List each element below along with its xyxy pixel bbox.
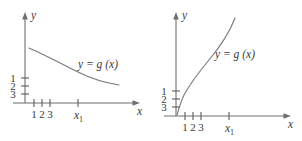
x-sub-one-subscript: 1 (79, 115, 83, 124)
curve-label-right: y = g (x) (214, 48, 255, 61)
x-tick-label-1: 1 (31, 108, 37, 120)
x-tick-label-3: 3 (47, 108, 53, 120)
x-sub-one-label: x1 (73, 109, 83, 124)
x-sub-one-subscript: 1 (230, 128, 234, 137)
x-axis-label: x (136, 105, 143, 117)
x-tick-label-3: 3 (198, 121, 204, 133)
y-axis-right (173, 12, 179, 116)
y-axis-label: y (181, 9, 188, 22)
chart-panel-left: y x 3 2 1 1 2 3 x1 y = g (x) (0, 0, 151, 141)
x-axis-right (164, 113, 291, 119)
x-tick-label-1: 1 (182, 121, 188, 133)
x-axis-label: x (287, 118, 294, 130)
x-tick-label-2: 2 (39, 108, 45, 120)
x-axis-left (13, 100, 140, 106)
y-tick-label-1: 1 (10, 72, 16, 84)
x-tick-label-2: 2 (190, 121, 196, 133)
y-axis-label: y (30, 9, 37, 22)
curve-label-left: y = g (x) (77, 58, 118, 71)
x-sub-one-label: x1 (224, 122, 234, 137)
chart-panel-right: y x 3 2 1 1 2 3 x1 y = g (x) (151, 0, 302, 141)
y-tick-label-1: 1 (161, 85, 167, 97)
y-axis-left (22, 12, 28, 103)
curve-right (177, 18, 235, 115)
figure-container: y x 3 2 1 1 2 3 x1 y = g (x) (0, 0, 302, 141)
